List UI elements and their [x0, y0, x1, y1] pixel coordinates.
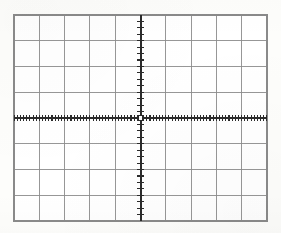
center-origin-marker	[138, 116, 143, 121]
graticule-canvas	[0, 0, 281, 233]
oscilloscope-graticule-figure	[0, 0, 281, 233]
